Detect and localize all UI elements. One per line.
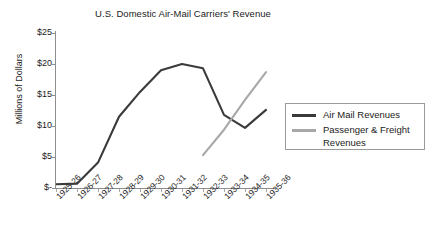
y-axis-tick-mark [52,188,55,189]
y-axis-tick-mark [52,95,55,96]
y-axis-tick-label: $5 [42,151,52,161]
y-axis-tick-mark [52,64,55,65]
chart-container: U.S. Domestic Air-Mail Carriers' Revenue… [0,0,434,239]
y-axis-tick-label: $20 [37,58,52,68]
y-axis-tick-label: $25 [37,27,52,37]
y-axis-tick-labels: $25$20$15$10$5$- [0,0,52,239]
legend-swatch-icon-passenger-and-freight-revenues [292,129,316,132]
legend-entry-air-mail-revenues: Air Mail Revenues [292,109,400,122]
y-axis-tick-mark [52,33,55,34]
legend-label-air-mail-revenues: Air Mail Revenues [323,109,400,122]
series-line [56,64,266,184]
legend-entry-passenger-and-freight-revenues: Passenger & Freight Revenues [292,124,421,149]
legend: Air Mail Revenues Passenger & Freight Re… [285,103,425,150]
legend-swatch-icon-air-mail-revenues [292,114,316,117]
legend-label-passenger-and-freight-revenues: Passenger & Freight Revenues [323,124,421,149]
y-axis-tick-label: $10 [37,120,52,130]
chart-title: U.S. Domestic Air-Mail Carriers' Revenue [68,8,298,19]
y-axis-tick-mark [52,126,55,127]
y-axis-tick-label: $- [44,182,52,192]
series-line [203,72,266,155]
y-axis-tick-mark [52,157,55,158]
plot-area [56,33,275,188]
data-series-svg [56,33,275,188]
y-axis-tick-label: $15 [37,89,52,99]
